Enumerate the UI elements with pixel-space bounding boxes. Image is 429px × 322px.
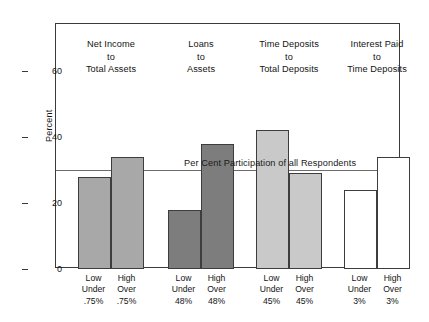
y-tick-20: 20 [28,198,62,208]
chart-figure: Percent 0204060 Net IncometoTotal Assets… [0,0,429,322]
bar-1-0 [168,210,201,269]
category-label-line: Over [102,284,151,295]
plot-area: Percent 0204060 Net IncometoTotal Assets… [55,23,400,268]
bar-3-0 [344,190,377,269]
category-label-line: High [280,273,329,284]
bar-2-1 [289,173,322,269]
category-label-0-1: HighOver.75% [102,273,151,307]
bar-0-1 [111,157,144,269]
category-label-line: Over [280,284,329,295]
category-label-line: High [368,273,417,284]
group-header-line: Interest Paid [316,38,429,51]
category-label-line: .75% [102,296,151,307]
y-tick-mark [22,71,28,72]
group-header-3: Interest PaidtoTime Deposits [316,38,429,76]
group-header-line: to [316,51,429,64]
y-tick-0: 0 [28,264,62,274]
y-tick-40: 40 [28,132,62,142]
bar-3-1 [377,157,410,269]
reference-line-label: Per Cent Participation of all Respondent… [184,158,356,168]
category-label-line: Over [368,284,417,295]
bar-2-0 [256,130,289,269]
category-label-line: 45% [280,296,329,307]
category-label-line: Over [192,284,241,295]
category-label-line: 48% [192,296,241,307]
bar-0-0 [78,177,111,269]
y-tick-mark [22,203,28,204]
category-label-3-1: HighOver3% [368,273,417,307]
y-tick-mark [22,269,28,270]
category-label-line: High [102,273,151,284]
group-header-line: Time Deposits [316,63,429,76]
category-label-line: 3% [368,296,417,307]
category-label-line: High [192,273,241,284]
category-label-2-1: HighOver45% [280,273,329,307]
y-tick-mark [22,137,28,138]
category-label-1-1: HighOver48% [192,273,241,307]
